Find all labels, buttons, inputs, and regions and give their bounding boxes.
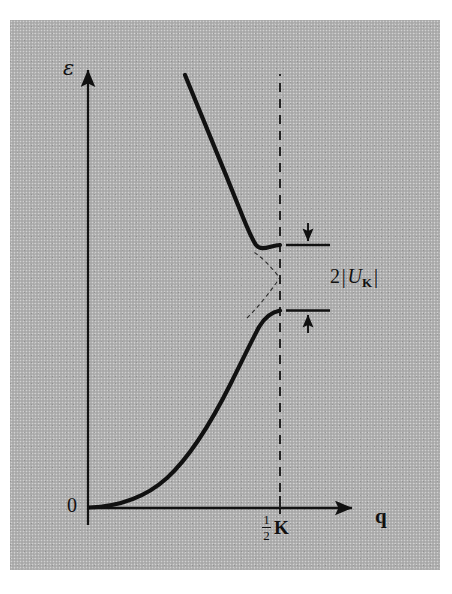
- upper-band-curve: [185, 75, 280, 248]
- band-gap-label: 2 | U K |: [330, 266, 380, 286]
- gap-close-bar: |: [372, 266, 379, 286]
- gap-symbol: U: [347, 266, 362, 286]
- x-axis-label: q: [375, 506, 387, 527]
- figure-root: ε q 0 1 2 K 2 | U K |: [0, 0, 452, 594]
- reciprocal-lattice-vector-symbol: K: [274, 518, 289, 537]
- zone-boundary-tick-label: 1 2 K: [262, 513, 289, 542]
- gap-prefix: 2: [330, 266, 340, 286]
- gap-open-bar: |: [340, 266, 347, 286]
- half-fraction: 1 2: [262, 513, 271, 542]
- free-electron-descending-dashed: [255, 253, 280, 279]
- gap-subscript: K: [362, 276, 372, 289]
- origin-label: 0: [67, 495, 77, 515]
- lower-band-curve: [89, 311, 280, 508]
- y-axis-label: ε: [63, 58, 74, 79]
- fraction-denominator: 2: [262, 529, 271, 542]
- fraction-numerator: 1: [262, 513, 271, 526]
